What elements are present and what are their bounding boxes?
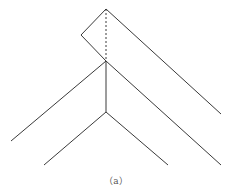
figure-caption: （a） xyxy=(0,174,232,187)
inner-left-line xyxy=(44,112,106,165)
left-corner-to-junction-line xyxy=(81,35,106,61)
line-diagram xyxy=(0,0,232,194)
top-left-edge-line xyxy=(81,9,106,35)
top-right-long-edge-line xyxy=(106,9,221,114)
junction-to-left-outer-line xyxy=(11,61,106,141)
inner-right-line xyxy=(106,112,168,165)
junction-to-right-lower-line xyxy=(106,61,221,165)
